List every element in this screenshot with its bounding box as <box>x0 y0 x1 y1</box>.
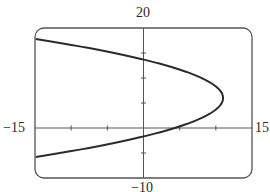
graph-plot <box>0 0 270 192</box>
x-min-label: −15 <box>3 121 25 135</box>
parabola-curve <box>36 39 223 157</box>
y-max-label: 20 <box>136 6 150 20</box>
y-min-label: −10 <box>131 181 153 192</box>
x-max-label: 15 <box>255 121 269 135</box>
